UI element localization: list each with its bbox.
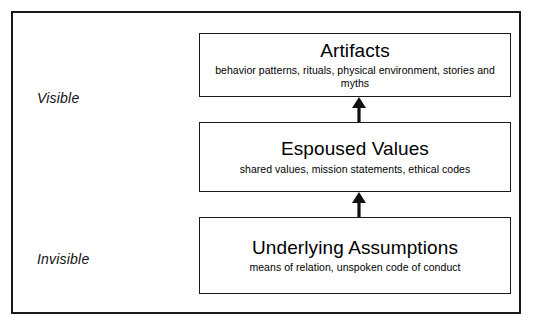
- level-box-underlying-assumptions: Underlying Assumptions means of relation…: [199, 217, 511, 294]
- level-title-underlying-assumptions: Underlying Assumptions: [252, 237, 458, 258]
- level-title-artifacts: Artifacts: [320, 40, 390, 61]
- side-label-visible: Visible: [37, 90, 79, 106]
- side-label-invisible: Invisible: [37, 251, 89, 267]
- level-box-espoused-values: Espoused Values shared values, mission s…: [199, 122, 511, 192]
- up-arrow-icon-assumptions-to-values: [349, 192, 369, 218]
- diagram-outer-frame: Visible Invisible Artifacts behavior pat…: [11, 11, 521, 314]
- level-box-artifacts: Artifacts behavior patterns, rituals, ph…: [199, 33, 511, 97]
- level-subtitle-underlying-assumptions: means of relation, unspoken code of cond…: [249, 261, 460, 274]
- level-subtitle-espoused-values: shared values, mission statements, ethic…: [240, 163, 471, 176]
- up-arrow-icon-values-to-artifacts: [349, 97, 369, 123]
- level-subtitle-artifacts: behavior patterns, rituals, physical env…: [207, 64, 503, 90]
- level-title-espoused-values: Espoused Values: [281, 138, 429, 159]
